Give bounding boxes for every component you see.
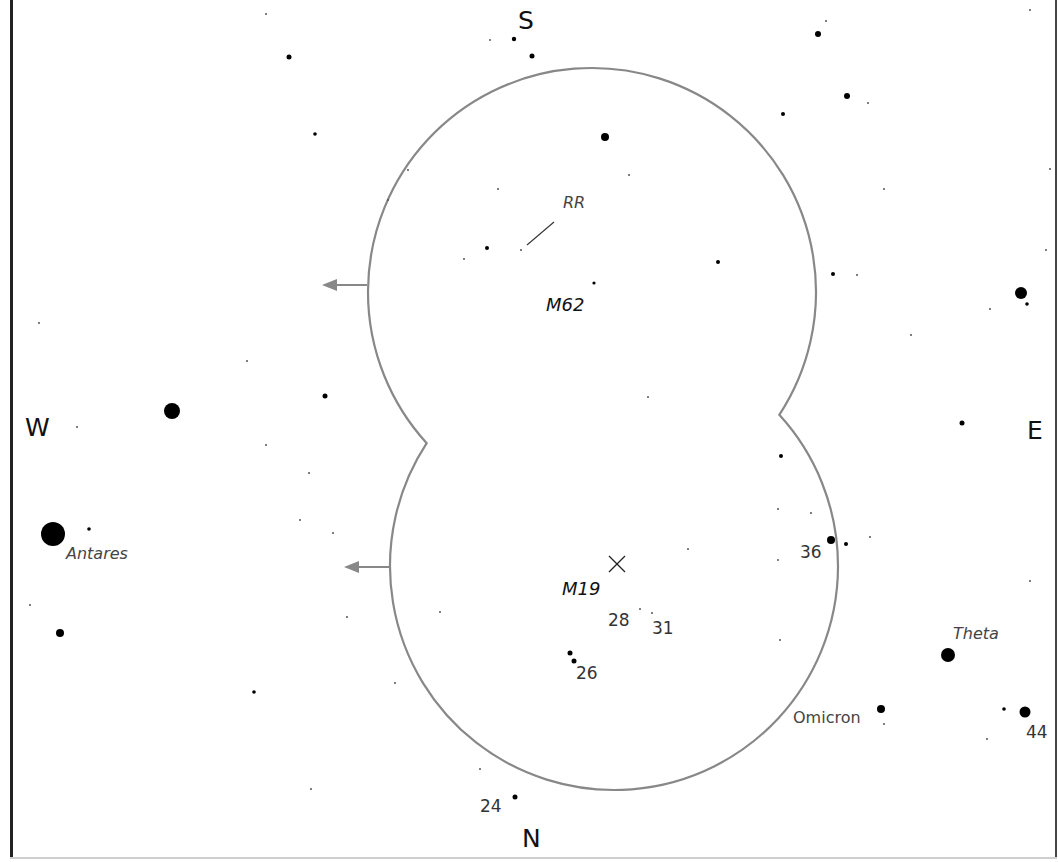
star: [1045, 249, 1047, 251]
star: [777, 559, 779, 561]
direction-label-n: N: [522, 826, 541, 851]
star: [883, 188, 885, 190]
rr-pointer-line: [527, 222, 554, 245]
deep-sky-objects: [527, 222, 625, 572]
star: [512, 37, 516, 41]
star: [313, 132, 317, 136]
star: [647, 396, 649, 398]
star: [910, 334, 912, 336]
star: [265, 13, 267, 15]
variable-star-label-rr: RR: [563, 195, 585, 211]
star: [779, 639, 781, 641]
star: [246, 360, 248, 362]
star: [87, 527, 91, 531]
star: [394, 682, 396, 684]
star: [592, 281, 595, 284]
star: [479, 768, 481, 770]
star: [520, 249, 522, 251]
star: [287, 55, 292, 60]
star: [986, 738, 988, 740]
star: [856, 274, 858, 276]
star: [56, 629, 64, 637]
star: [844, 542, 848, 546]
star: [310, 788, 312, 790]
star: [407, 169, 409, 171]
star: [38, 322, 40, 324]
star: [1049, 168, 1051, 170]
star: [877, 705, 885, 713]
star-chart: [0, 0, 1058, 862]
star: [779, 454, 783, 458]
star: [716, 260, 720, 264]
star: [308, 472, 310, 474]
star: [867, 102, 869, 104]
upper-arrow: [322, 279, 367, 291]
m19-cross-marker: [609, 556, 625, 572]
star: [463, 258, 465, 260]
star: [513, 795, 518, 800]
star: [568, 651, 573, 656]
star: [960, 421, 965, 426]
star: [485, 246, 489, 250]
lower-arrow: [344, 561, 389, 573]
star: [1020, 707, 1031, 718]
star: [825, 20, 827, 22]
star: [164, 403, 180, 419]
star-number-36: 36: [800, 544, 822, 561]
star: [781, 112, 785, 116]
star: [844, 93, 850, 99]
star: [1015, 287, 1027, 299]
star: [815, 31, 821, 37]
star: [639, 608, 641, 610]
object-label-m62: M62: [546, 296, 584, 314]
stars: [29, 9, 1051, 800]
star: [869, 536, 871, 538]
direction-label-e: E: [1027, 418, 1043, 443]
field-of-view-path: [368, 68, 838, 790]
star: [883, 723, 885, 725]
star: [1029, 9, 1031, 11]
star: [651, 612, 653, 614]
star-number-24: 24: [480, 798, 502, 815]
field-of-view-outline: [368, 68, 838, 790]
star: [827, 536, 835, 544]
star: [601, 133, 609, 141]
drift-arrows: [322, 279, 389, 573]
star: [299, 519, 301, 521]
star: [346, 616, 348, 618]
star: [41, 522, 65, 546]
star: [530, 54, 535, 59]
star: [323, 394, 328, 399]
star-number-44: 44: [1026, 724, 1048, 741]
star: [252, 690, 256, 694]
star: [810, 512, 812, 514]
star: [387, 199, 389, 201]
object-label-m19: M19: [562, 580, 600, 598]
star: [332, 532, 334, 534]
star: [76, 426, 78, 428]
star: [265, 444, 267, 446]
star: [497, 188, 499, 190]
star: [489, 39, 491, 41]
star-number-28: 28: [608, 612, 630, 629]
star: [1025, 302, 1029, 306]
star: [29, 604, 31, 606]
star: [831, 272, 835, 276]
direction-label-s: S: [518, 8, 534, 33]
star: [628, 174, 630, 176]
star-label-antares: Antares: [66, 546, 128, 562]
star: [777, 508, 779, 510]
star: [941, 648, 955, 662]
direction-label-w: W: [25, 415, 50, 440]
star: [687, 548, 689, 550]
star-number-26: 26: [576, 665, 598, 682]
star: [439, 611, 441, 613]
star-number-31: 31: [652, 620, 674, 637]
star: [1029, 580, 1031, 582]
star-label-omicron: Omicron: [793, 710, 861, 726]
star: [1002, 707, 1006, 711]
star: [989, 308, 991, 310]
star-label-theta: Theta: [953, 626, 999, 642]
